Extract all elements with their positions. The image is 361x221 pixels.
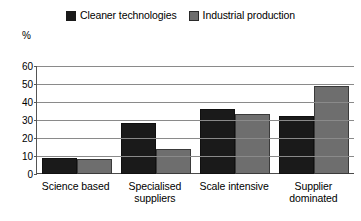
y-axis-unit-label: % (22, 30, 31, 41)
gridline (37, 66, 354, 67)
y-axis-tick-mark (34, 120, 37, 121)
gridline (37, 120, 354, 121)
bar-series-0[interactable] (279, 116, 314, 174)
x-axis-category-label-line: Supplier (276, 180, 351, 192)
x-axis-category-label-line: suppliers (117, 192, 192, 204)
x-axis-category-label: Scale intensive (195, 180, 274, 204)
chart-legend: Cleaner technologies Industrial producti… (0, 10, 361, 21)
bar-series-1[interactable] (314, 86, 349, 174)
bar-series-0[interactable] (42, 158, 77, 174)
y-axis-tick-mark (34, 84, 37, 85)
x-axis-category-label: Supplierdominated (274, 180, 353, 204)
x-axis-category-label: Specialisedsuppliers (115, 180, 194, 204)
bar-series-1[interactable] (156, 149, 191, 174)
y-axis-tick-label: 20 (22, 133, 33, 144)
y-axis-tick-label: 30 (22, 115, 33, 126)
plot-area: 0102030405060 (36, 66, 354, 174)
x-axis-category-label: Science based (36, 180, 115, 204)
y-axis-tick-label: 0 (27, 169, 33, 180)
y-axis-tick-mark (34, 174, 37, 175)
legend-swatch-icon-series-1 (189, 11, 199, 21)
gridline (37, 84, 354, 85)
x-axis-category-label-line: Science based (38, 180, 113, 192)
y-axis-tick-label: 60 (22, 61, 33, 72)
gridline (37, 138, 354, 139)
y-axis-tick-label: 50 (22, 79, 33, 90)
legend-swatch-icon-series-0 (66, 11, 76, 21)
legend-entry-cleaner-technologies: Cleaner technologies (66, 10, 177, 21)
y-axis-tick-label: 40 (22, 97, 33, 108)
y-axis-tick-label: 10 (22, 151, 33, 162)
bar-chart: Cleaner technologies Industrial producti… (0, 0, 361, 221)
gridline (37, 102, 354, 103)
x-axis-category-label-line: Scale intensive (197, 180, 272, 192)
x-axis-category-label-line: Specialised (117, 180, 192, 192)
legend-entry-industrial-production: Industrial production (189, 10, 295, 21)
bar-series-0[interactable] (200, 109, 235, 174)
y-axis-tick-mark (34, 66, 37, 67)
gridline (37, 156, 354, 157)
y-axis-tick-mark (34, 138, 37, 139)
legend-label-series-1: Industrial production (203, 10, 295, 21)
bar-series-1[interactable] (77, 159, 112, 174)
bar-series-0[interactable] (121, 123, 156, 174)
legend-label-series-0: Cleaner technologies (80, 10, 177, 21)
y-axis-tick-mark (34, 156, 37, 157)
y-axis-tick-mark (34, 102, 37, 103)
x-axis-category-label-line: dominated (276, 192, 351, 204)
bar-series-1[interactable] (235, 114, 270, 174)
x-axis-labels: Science basedSpecialisedsuppliersScale i… (36, 180, 353, 204)
